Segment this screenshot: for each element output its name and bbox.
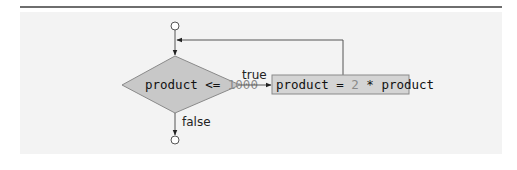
false-label: false: [182, 115, 211, 129]
true-label: true: [242, 68, 267, 82]
action-statement: product = 2 * product: [276, 77, 434, 92]
initial-node-icon: [171, 22, 179, 30]
flowchart: product <= 1000 true product = 2 * produ…: [0, 0, 517, 170]
final-node-icon: [171, 136, 179, 144]
